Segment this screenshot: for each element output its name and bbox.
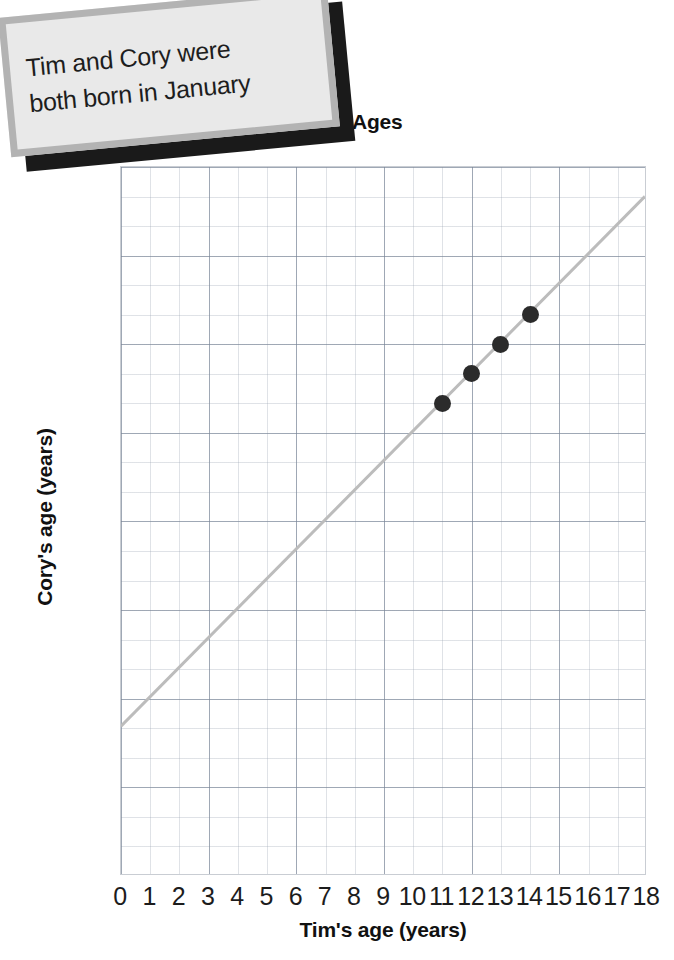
x-axis-tick-label: 11	[429, 884, 454, 909]
data-point	[434, 395, 451, 412]
data-point	[522, 306, 539, 323]
x-axis-tick-label: 3	[201, 884, 214, 909]
x-axis-tick-label: 12	[457, 884, 484, 909]
data-point	[492, 336, 509, 353]
x-axis-title: Tim's age (years)	[120, 918, 646, 942]
x-axis-tick-label: 1	[143, 884, 156, 909]
x-axis-tick-label: 6	[289, 884, 302, 909]
x-axis-tick-label: 2	[172, 884, 185, 909]
x-axis-tick-label: 4	[230, 884, 243, 909]
x-axis-tick-label: 5	[259, 884, 272, 909]
x-axis-tick-label: 18	[633, 884, 660, 909]
trend-line	[121, 167, 645, 873]
speech-callout: Tim and Cory were both born in January	[0, 0, 340, 157]
plot-area	[120, 166, 646, 875]
x-axis-tick-label: 7	[318, 884, 331, 909]
x-axis-tick-label: 16	[574, 884, 601, 909]
x-axis-tick-label: 13	[486, 884, 513, 909]
x-axis-tick-label: 14	[516, 884, 543, 909]
x-axis-tick-label: 9	[376, 884, 389, 909]
x-axis-tick-label: 15	[545, 884, 572, 909]
x-axis-tick-label: 8	[347, 884, 360, 909]
x-axis-tick-label: 0	[113, 884, 126, 909]
x-axis-tick-labels: 0123456789101112131415161718	[120, 884, 646, 916]
x-axis-tick-label: 17	[603, 884, 630, 909]
x-axis-tick-label: 10	[399, 884, 426, 909]
